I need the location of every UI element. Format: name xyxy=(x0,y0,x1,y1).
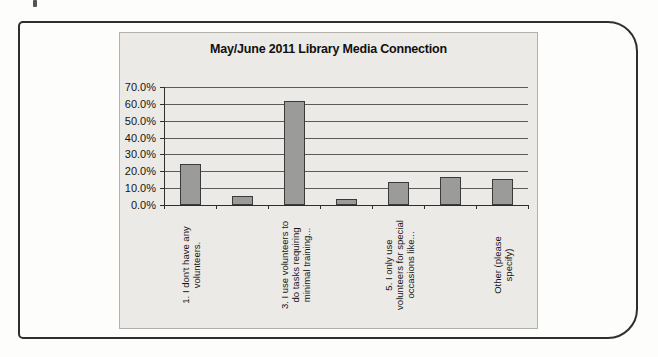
y-axis-label: 0.0% xyxy=(120,199,156,211)
x-axis-label: 3. I use volunteers to do tasks requirin… xyxy=(274,213,314,318)
category-tick xyxy=(164,205,165,209)
bar xyxy=(336,199,357,205)
bar-chart: May/June 2011 Library Media Connection 0… xyxy=(119,32,538,329)
x-axis-label: Other (please specify) xyxy=(482,213,522,318)
category-tick xyxy=(268,205,269,209)
y-axis-label: 70.0% xyxy=(120,81,156,93)
gridline xyxy=(164,171,528,172)
figure-frame: May/June 2011 Library Media Connection 0… xyxy=(18,21,638,339)
category-tick xyxy=(320,205,321,209)
x-axis-label: 5. I only use volunteers for special occ… xyxy=(378,213,418,318)
y-axis-label: 40.0% xyxy=(120,132,156,144)
y-axis-label: 60.0% xyxy=(120,98,156,110)
bar xyxy=(284,101,305,205)
gridline xyxy=(164,154,528,155)
y-axis-line xyxy=(164,87,165,208)
y-axis-label: 50.0% xyxy=(120,115,156,127)
category-tick xyxy=(216,205,217,209)
gridline xyxy=(164,104,528,105)
bar xyxy=(180,164,201,205)
chart-title: May/June 2011 Library Media Connection xyxy=(120,42,537,56)
category-tick xyxy=(528,205,529,209)
gridline xyxy=(164,121,528,122)
bar xyxy=(440,177,461,205)
bar xyxy=(388,182,409,205)
category-tick xyxy=(476,205,477,209)
gridline xyxy=(164,87,528,88)
y-axis-label: 30.0% xyxy=(120,148,156,160)
category-tick xyxy=(372,205,373,209)
x-axis-label: 1. I don't have any volunteers. xyxy=(170,213,210,318)
x-axis-line xyxy=(163,205,528,206)
bar xyxy=(232,196,253,205)
y-axis-label: 10.0% xyxy=(120,182,156,194)
gridline xyxy=(164,138,528,139)
gridline xyxy=(164,188,528,189)
bar xyxy=(492,179,513,205)
category-tick xyxy=(424,205,425,209)
y-axis-label: 20.0% xyxy=(120,165,156,177)
scan-artifact-mark xyxy=(33,0,37,7)
